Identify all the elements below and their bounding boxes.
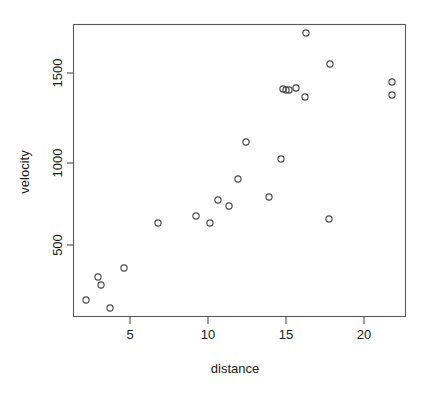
- data-point: [278, 156, 284, 162]
- data-point: [326, 216, 332, 222]
- data-point: [95, 274, 101, 280]
- plot-frame: [74, 25, 406, 317]
- plot-canvas: 1500 1000 500 velocity 5 10 15 20 distan…: [0, 0, 427, 395]
- data-point: [293, 85, 299, 91]
- scatter-plot-figure: 1500 1000 500 velocity 5 10 15 20 distan…: [0, 0, 427, 395]
- data-point: [302, 94, 308, 100]
- data-point: [155, 220, 161, 226]
- data-point: [389, 92, 395, 98]
- data-point: [121, 265, 127, 271]
- data-point: [303, 30, 309, 36]
- data-point: [226, 203, 232, 209]
- x-axis-title: distance: [211, 361, 259, 376]
- data-point: [266, 194, 272, 200]
- data-point: [235, 176, 241, 182]
- y-tick-label-1500: 1500: [50, 59, 65, 88]
- data-point: [389, 79, 395, 85]
- y-tick-label-1000: 1000: [50, 149, 65, 178]
- data-point: [327, 61, 333, 67]
- y-tick-label-500: 500: [50, 234, 65, 256]
- y-axis: 1500 1000 500 velocity: [17, 59, 73, 256]
- data-point: [83, 297, 89, 303]
- x-tick-label-20: 20: [357, 327, 371, 342]
- data-point: [107, 305, 113, 311]
- x-tick-label-5: 5: [126, 327, 133, 342]
- data-point: [243, 139, 249, 145]
- y-axis-title: velocity: [17, 150, 32, 194]
- x-axis: 5 10 15 20 distance: [126, 317, 371, 376]
- x-tick-label-10: 10: [201, 327, 215, 342]
- data-point-layer: [83, 30, 395, 311]
- data-point: [193, 213, 199, 219]
- data-point: [207, 220, 213, 226]
- x-tick-label-15: 15: [279, 327, 293, 342]
- data-point: [98, 282, 104, 288]
- data-point: [215, 197, 221, 203]
